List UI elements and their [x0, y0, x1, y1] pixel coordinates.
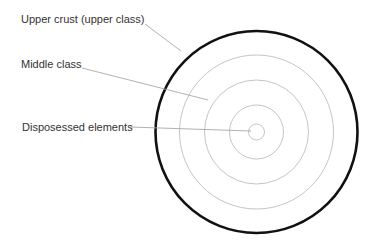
- ring-middle-class-inner: [205, 80, 309, 184]
- leader-line: [145, 24, 181, 51]
- label-dispossessed-elements: Disposessed elements: [22, 121, 133, 133]
- ring-lower: [230, 105, 284, 159]
- ring-outer-upper-crust: [156, 31, 358, 233]
- leader-line: [82, 68, 208, 100]
- ring-middle-class-outer: [180, 55, 334, 209]
- label-upper-crust: Upper crust (upper class): [21, 13, 145, 25]
- rings-group: [156, 31, 358, 233]
- leader-lines-group: [82, 24, 251, 131]
- label-middle-class: Middle class: [21, 58, 82, 70]
- leader-line: [130, 127, 251, 131]
- ring-core-dispossessed: [249, 124, 265, 140]
